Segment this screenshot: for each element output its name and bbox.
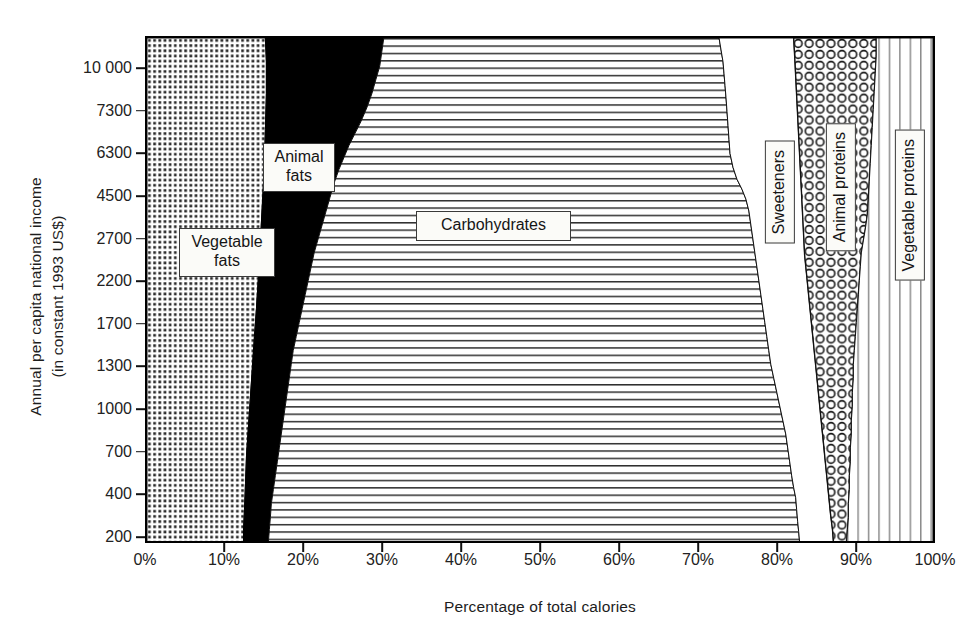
x-tick-label: 10% [208,551,240,569]
x-tick-mark [697,543,699,552]
label-sweeteners: Sweeteners [765,141,795,244]
x-tick-label: 70% [682,551,714,569]
x-tick-label: 40% [445,551,477,569]
y-tick-mark [136,408,145,410]
x-tick-mark [539,543,541,552]
label-carbohydrates: Carbohydrates [416,211,571,241]
x-tick-label: 80% [761,551,793,569]
y-tick-label: 4500 [96,187,132,205]
x-tick-mark [223,543,225,552]
x-tick-mark [618,543,620,552]
y-tick-label: 2700 [96,230,132,248]
y-tick-mark [136,536,145,538]
y-tick-mark [136,366,145,368]
y-tick-label: 2200 [96,272,132,290]
y-tick-mark [136,195,145,197]
x-tick-label: 60% [603,551,635,569]
y-tick-mark [136,152,145,154]
y-tick-label: 7300 [96,102,132,120]
stacked-area-bands [147,38,933,542]
x-tick-mark [776,543,778,552]
x-tick-label: 20% [287,551,319,569]
y-tick-label: 200 [105,528,132,546]
label-vegetable-proteins: Vegetable proteins [895,130,925,281]
x-tick-label: 90% [840,551,872,569]
y-tick-label: 700 [105,443,132,461]
x-tick-mark [302,543,304,552]
x-tick-label: 0% [133,551,156,569]
x-tick-mark [855,543,857,552]
y-tick-label: 10 000 [83,59,132,77]
x-tick-label: 30% [366,551,398,569]
y-tick-mark [136,494,145,496]
y-tick-label: 400 [105,485,132,503]
y-tick-label: 6300 [96,144,132,162]
x-axis-title: Percentage of total calories [145,598,935,616]
y-tick-label: 1300 [96,357,132,375]
x-tick-mark [381,543,383,552]
y-tick-mark [136,451,145,453]
label-animal-proteins: Animal proteins [826,123,856,251]
y-tick-mark [136,110,145,112]
y-tick-label: 1700 [96,315,132,333]
y-tick-mark [136,238,145,240]
y-tick-mark [136,323,145,325]
plot-area: Vegetable fats Animal fats Carbohydrates… [145,36,935,543]
y-tick-mark [136,67,145,69]
y-tick-mark [136,280,145,282]
y-tick-label: 1000 [96,400,132,418]
label-animal-fats: Animal fats [263,143,335,192]
label-vegetable-fats: Vegetable fats [179,228,275,277]
x-tick-label: 100% [915,551,956,569]
figure-root: 2004007001000130017002200270045006300730… [0,0,972,636]
x-tick-label: 50% [524,551,556,569]
x-tick-mark [460,543,462,552]
y-axis-title: Annual per capita national income (in co… [25,86,70,506]
